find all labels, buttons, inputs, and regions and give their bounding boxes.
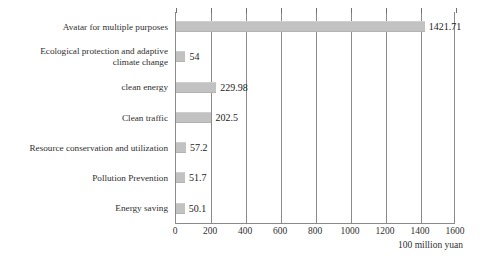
category-label: Resource conservation and utilization xyxy=(0,143,168,154)
bar[interactable] xyxy=(176,82,216,93)
bar-value-label: 229.98 xyxy=(220,78,248,97)
bar-value-label: 50.1 xyxy=(189,199,207,218)
bar[interactable] xyxy=(176,142,186,153)
bar-value-label: 202.5 xyxy=(215,108,238,127)
x-tick-label: 1200 xyxy=(376,226,395,236)
bar-value-label: 54 xyxy=(189,47,199,66)
x-axis-tick-mark xyxy=(456,8,457,13)
x-axis-unit-label: 100 million yuan xyxy=(175,240,463,250)
bar[interactable] xyxy=(176,203,185,214)
x-tick-label: 1600 xyxy=(446,226,465,236)
category-label: clean energy xyxy=(0,82,168,93)
plot-area: 1421.7154229.98202.557.251.750.1 xyxy=(175,12,455,224)
bar-row: 50.1 xyxy=(176,194,454,224)
category-label: Clean traffic xyxy=(0,113,168,124)
bar-value-label: 51.7 xyxy=(189,168,207,187)
category-axis-labels: Avatar for multiple purposesEcological p… xyxy=(0,12,172,224)
x-tick-label: 1400 xyxy=(411,226,430,236)
bar-row: 1421.71 xyxy=(176,12,454,42)
bar[interactable] xyxy=(176,21,425,32)
bar-chart: Avatar for multiple purposesEcological p… xyxy=(0,0,484,272)
bar-row: 51.7 xyxy=(176,163,454,193)
x-tick-label: 200 xyxy=(203,226,217,236)
bar-value-label: 1421.71 xyxy=(429,17,462,36)
bar-value-label: 57.2 xyxy=(190,138,208,157)
x-tick-label: 0 xyxy=(173,226,178,236)
x-tick-label: 600 xyxy=(273,226,287,236)
bar[interactable] xyxy=(176,112,211,123)
bar-row: 57.2 xyxy=(176,133,454,163)
category-label: Avatar for multiple purposes xyxy=(0,22,168,33)
bar[interactable] xyxy=(176,172,185,183)
bar[interactable] xyxy=(176,51,185,62)
x-tick-label: 1000 xyxy=(341,226,360,236)
x-axis-tick-labels: 02004006008001000120014001600 xyxy=(175,226,455,240)
category-label: Pollution Prevention xyxy=(0,173,168,184)
x-tick-label: 400 xyxy=(238,226,252,236)
x-tick-label: 800 xyxy=(308,226,322,236)
bar-row: 202.5 xyxy=(176,103,454,133)
category-label: Ecological protection and adaptive clima… xyxy=(0,46,168,68)
bar-row: 54 xyxy=(176,42,454,72)
bar-row: 229.98 xyxy=(176,73,454,103)
category-label: Energy saving xyxy=(0,203,168,214)
